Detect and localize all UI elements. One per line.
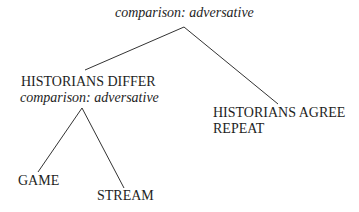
leaf-game: GAME (18, 173, 59, 189)
leaf-stream: STREAM (97, 188, 154, 204)
tree-diagram: comparison: adversative HISTORIANS DIFFE… (0, 0, 359, 212)
edge-differ-to-game (38, 108, 82, 172)
edge-root-to-historians-differ (85, 27, 184, 70)
edge-root-to-historians-agree (184, 27, 278, 104)
node-historians-differ-relation: comparison: adversative (20, 90, 159, 106)
edge-differ-to-stream (82, 108, 124, 188)
node-historians-agree-title: HISTORIANS AGREE (213, 105, 345, 121)
node-historians-agree-subtitle: REPEAT (213, 121, 264, 137)
node-historians-differ-title: HISTORIANS DIFFER (21, 74, 156, 90)
root-relation-label: comparison: adversative (115, 5, 254, 21)
